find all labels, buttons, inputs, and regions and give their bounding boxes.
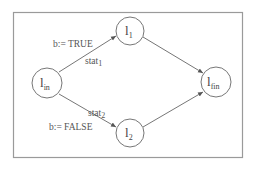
edge-label-stat1: stat1 — [85, 56, 102, 68]
node-l-in: lin — [32, 68, 62, 98]
node-l-fin: lfin — [201, 67, 231, 97]
edge-label-b-true: b:= TRUE — [53, 39, 93, 49]
edge-label-stat2: stat2 — [88, 108, 105, 120]
diagram-canvas: b:= TRUE stat1 stat2 b:= FALSE lin l1 l2… — [0, 0, 256, 183]
edge-2-to-fin — [143, 92, 203, 127]
edge-label-b-false: b:= FALSE — [49, 122, 93, 132]
node-l-2: l2 — [116, 119, 144, 147]
edge-1-to-fin — [143, 37, 203, 73]
node-l-1: l1 — [116, 17, 144, 45]
